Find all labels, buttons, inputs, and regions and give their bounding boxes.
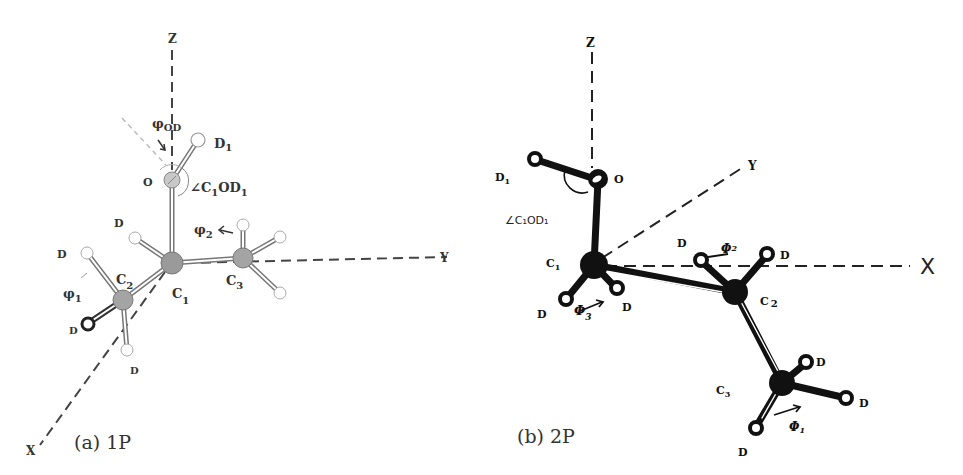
atom-c1-b [580,251,608,279]
z-axis-label-a: Z [168,32,177,46]
atom-c2-b [722,279,748,305]
d-label-b: D [738,446,748,459]
atom-c1-a [161,252,183,274]
c1od1-angle-label-a: ∠C1OD1 [190,180,248,198]
panel-a-1p: Z Y X φOD D1 O ∠C1OD1 D φ2 D C2 C1 C3 φ1… [26,32,449,458]
figure-canvas: Z Y X φOD D1 O ∠C1OD1 D φ2 D C2 C1 C3 φ1… [0,0,963,475]
atom-d-a [82,318,94,330]
c3-label-b: C3 [716,384,731,399]
x-axis-label-b: X [920,254,935,279]
phi2-label-a: φ2 [194,222,213,240]
atoms-b [529,153,852,434]
panel-b-2p: Z Y X D1 O ∠C₁OD₁ C1 D Φ3 D D Φ2 D C2 C3… [495,36,935,459]
bonds-a [87,140,280,350]
atom-d-a [237,219,249,231]
phi3-label-b: Φ3 [574,303,592,322]
z-axis-label-b: Z [586,36,595,50]
c3-label-a: C3 [226,273,243,291]
atom-d-b [695,254,707,266]
c2-label-b: C2 [760,295,778,309]
y-axis-label-a: Y [439,251,449,265]
atom-d-b [840,392,852,404]
d-label-b: D [859,397,869,410]
atom-c3-a [233,248,253,268]
d-label-a: D [69,325,78,336]
atom-d-b [761,248,773,260]
caption-b: (b) 2P [517,425,575,447]
atom-c2-a [113,290,133,310]
caption-a: (a) 1P [74,431,131,453]
o-label-a: O [143,176,153,189]
d-label-b: D [537,308,547,321]
d-label-a: D [130,365,139,376]
atom-d-b [611,282,623,294]
atom-d-a [129,232,141,244]
atom-d-a [274,287,286,299]
d-label-b: D [622,301,632,314]
d-label-b: D [816,356,826,369]
atom-d1-a [191,133,205,147]
atom-d-b [800,356,812,368]
phi-od-label: φOD [152,116,181,133]
x-axis-a [40,272,165,445]
atom-d1-b [529,153,541,165]
d-label-b: D [780,249,790,262]
c1od1-angle-label-b: ∠C₁OD₁ [505,214,549,227]
d-label-a: D [57,248,67,261]
atom-d-b [560,293,572,305]
d1-label-b: D1 [495,171,510,186]
atom-d-a [274,231,286,243]
o-label-b: O [614,173,624,186]
x-axis-label-a: X [26,444,36,458]
atom-d-a [121,344,133,356]
c1-label-a: C1 [172,286,189,306]
c1-label-b: C1 [546,257,560,272]
d1-label-a: D1 [214,136,232,153]
phi1-arrow [81,273,87,278]
y-axis-label-b: Y [747,159,757,173]
phi2-label-b: Φ2 [721,242,737,256]
atom-c3-b [769,370,795,396]
d-label-a: D [114,217,124,230]
d-label-b: D [677,237,687,250]
atom-d-b [750,422,762,434]
phi1-label-a: φ1 [63,286,82,304]
phi1-arrow-b [774,407,799,415]
atom-d-a [81,247,93,259]
phi1-label-b: Φ1 [789,420,805,435]
c2-label-a: C2 [116,272,133,291]
